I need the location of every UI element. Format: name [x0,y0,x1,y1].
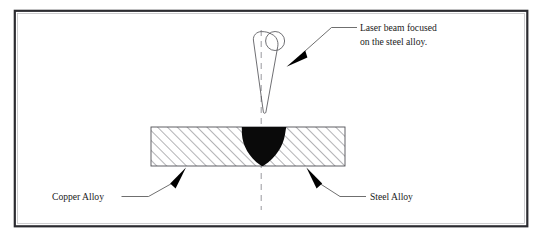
laser-welding-diagram: Laser beam focused on the steel alloy. C… [0,0,543,236]
laser-note-line-1: Laser beam focused [360,22,437,33]
copper-alloy-label: Copper Alloy [52,191,104,202]
figure-container: Laser beam focused on the steel alloy. C… [0,0,543,236]
steel-alloy-label: Steel Alloy [370,191,413,202]
laser-note-line-2: on the steel alloy. [360,36,427,47]
